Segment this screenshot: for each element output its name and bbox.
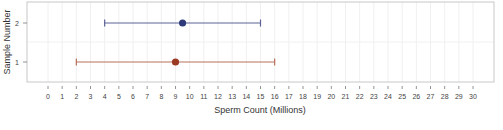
x-tick-label: 19: [313, 93, 321, 100]
x-tick-label: 15: [257, 93, 265, 100]
x-tick-label: 13: [228, 93, 236, 100]
data-point: [179, 19, 186, 26]
error-bar-1: [76, 58, 274, 65]
x-tick-label: 17: [285, 93, 293, 100]
y-tick-label: 2: [15, 20, 19, 27]
x-tick-label: 18: [299, 93, 307, 100]
x-tick-label: 10: [186, 93, 194, 100]
x-tick-label: 5: [117, 93, 121, 100]
x-tick-label: 26: [412, 93, 420, 100]
x-tick-label: 9: [174, 93, 178, 100]
x-tick-label: 14: [242, 93, 250, 100]
x-tick-label: 23: [370, 93, 378, 100]
x-tick-label: 4: [103, 93, 107, 100]
x-tick-label: 1: [60, 93, 64, 100]
y-axis: 12: [15, 20, 27, 66]
x-tick-label: 16: [271, 93, 279, 100]
x-tick-label: 25: [398, 93, 406, 100]
x-tick-label: 3: [89, 93, 93, 100]
x-tick-label: 12: [214, 93, 222, 100]
x-tick-label: 22: [356, 93, 364, 100]
data-point: [172, 58, 179, 65]
x-tick-label: 11: [200, 93, 207, 100]
x-tick-label: 21: [342, 93, 350, 100]
x-axis: 0123456789101112131415161718192021222324…: [46, 86, 477, 100]
x-tick-label: 2: [74, 93, 78, 100]
chart: 12 0123456789101112131415161718192021222…: [0, 0, 503, 130]
x-tick-label: 6: [131, 93, 135, 100]
x-tick-label: 7: [145, 93, 149, 100]
x-tick-label: 28: [441, 93, 449, 100]
x-tick-label: 8: [159, 93, 163, 100]
x-tick-label: 24: [384, 93, 392, 100]
y-axis-title: Sample Number: [2, 9, 12, 74]
x-tick-label: 0: [46, 93, 50, 100]
error-bar-2: [105, 19, 261, 26]
x-tick-label: 27: [427, 93, 435, 100]
x-tick-label: 29: [455, 93, 463, 100]
x-tick-label: 20: [327, 93, 335, 100]
grid-lines: [27, 2, 494, 82]
x-axis-title: Sperm Count (Millions): [214, 105, 306, 115]
x-tick-label: 30: [469, 93, 477, 100]
y-tick-label: 1: [15, 59, 19, 66]
